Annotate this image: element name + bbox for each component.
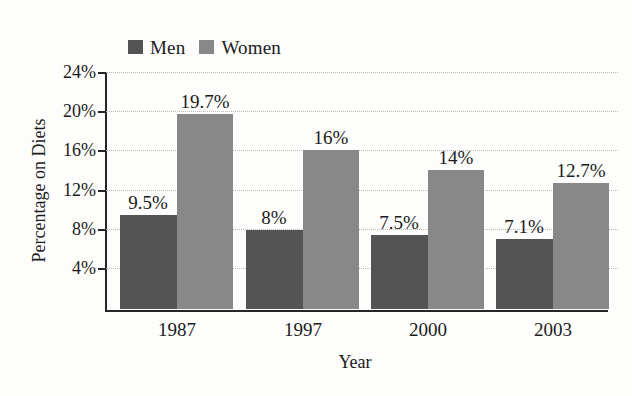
y-tick-label-20: 20% — [42, 102, 96, 120]
bar-women-1987[interactable] — [177, 114, 233, 309]
x-axis-line — [105, 310, 608, 312]
x-tick-label-2000: 2000 — [392, 320, 464, 339]
y-tick-4 — [98, 268, 106, 270]
y-tick-label-12: 12% — [42, 181, 96, 199]
chart-legend: Men Women — [128, 34, 348, 60]
legend-label-women: Women — [221, 38, 281, 57]
bar-men-1997[interactable] — [246, 230, 303, 309]
y-tick-20 — [98, 111, 106, 113]
legend-item-women: Women — [199, 38, 281, 57]
legend-item-men: Men — [128, 38, 185, 57]
bar-value-women-1997: 16% — [296, 128, 366, 147]
plot-area: 9.5% 19.7% 1987 8% 16% 1997 7.5% 14% 200… — [105, 72, 605, 311]
legend-swatch-women-icon — [199, 40, 214, 54]
bar-women-2000[interactable] — [428, 170, 484, 309]
y-tick-label-24: 24% — [42, 63, 96, 81]
bar-women-2003[interactable] — [553, 183, 609, 309]
bar-women-1997[interactable] — [303, 150, 359, 309]
y-tick-label-8: 8% — [42, 220, 96, 238]
legend-swatch-men-icon — [128, 40, 143, 54]
y-axis-line — [105, 72, 107, 312]
bar-men-1987[interactable] — [120, 215, 177, 309]
bar-value-women-2003: 12.7% — [545, 161, 617, 180]
y-tick-12 — [98, 190, 106, 192]
x-tick-label-1997: 1997 — [267, 320, 339, 339]
bar-chart: Men Women Percentage on Diets 24% 20% 16… — [0, 0, 632, 396]
y-tick-16 — [98, 150, 106, 152]
x-tick-label-2003: 2003 — [517, 320, 589, 339]
bar-value-men-1987: 9.5% — [113, 193, 183, 212]
y-tick-8 — [98, 229, 106, 231]
bar-men-2003[interactable] — [496, 239, 553, 309]
bar-value-men-1997: 8% — [239, 208, 309, 227]
y-tick-label-4: 4% — [42, 259, 96, 277]
bar-value-women-1987: 19.7% — [170, 92, 240, 111]
x-tick-label-1987: 1987 — [141, 320, 213, 339]
legend-label-men: Men — [150, 38, 185, 57]
y-tick-label-16: 16% — [42, 141, 96, 159]
x-axis-title: Year — [105, 352, 605, 373]
gridline-24 — [106, 72, 618, 73]
bar-men-2000[interactable] — [371, 235, 428, 309]
bar-value-men-2000: 7.5% — [364, 213, 434, 232]
bar-value-women-2000: 14% — [421, 148, 491, 167]
y-tick-24 — [98, 72, 106, 74]
bar-value-men-2003: 7.1% — [489, 217, 559, 236]
